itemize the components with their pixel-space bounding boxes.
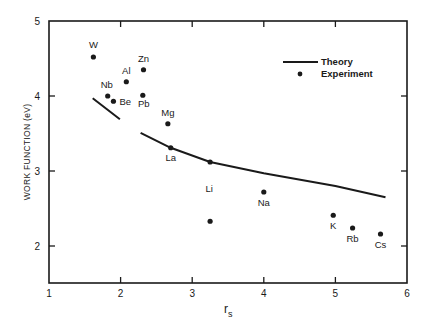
x-axis-title-subscript: s	[228, 309, 233, 319]
experiment-point-la	[168, 145, 173, 150]
experiment-point-zn	[141, 67, 146, 72]
experiment-point-k	[331, 213, 336, 218]
point-label: Be	[119, 96, 131, 107]
point-label: Na	[258, 197, 271, 208]
experiment-point-nb	[105, 93, 110, 98]
experiment-point	[208, 219, 213, 224]
theory-curve	[93, 98, 386, 197]
y-tick-label: 5	[34, 16, 40, 27]
legend-experiment-swatch	[298, 72, 303, 77]
point-label: La	[165, 152, 176, 163]
x-axis-title: rs	[224, 302, 233, 319]
experiment-point-na	[261, 189, 266, 194]
x-tick-label: 2	[118, 288, 124, 299]
theory-line-segment	[141, 133, 386, 198]
axis-ticks: 1234562345	[34, 16, 410, 299]
experiment-point-rb	[350, 225, 355, 230]
x-tick-label: 6	[404, 288, 410, 299]
y-axis-title: WORK FUNCTION (eV)	[22, 104, 32, 201]
experiment-point-li	[208, 159, 213, 164]
experiment-point-be	[111, 99, 116, 104]
point-label: K	[330, 220, 337, 231]
point-label: Zn	[138, 53, 149, 64]
work-function-chart: 1234562345 WNbBeAlZnPbMgLaLiNaKRbCs WORK…	[0, 0, 427, 334]
point-label: Pb	[138, 98, 150, 109]
y-tick-label: 2	[34, 241, 40, 252]
experiment-point-w	[91, 54, 96, 59]
x-tick-label: 3	[189, 288, 195, 299]
point-label: Li	[205, 183, 212, 194]
experiment-point-cs	[378, 231, 383, 236]
legend-theory-label: Theory	[321, 56, 353, 67]
point-label: Nb	[101, 79, 113, 90]
experiment-point-al	[124, 79, 129, 84]
y-tick-label: 3	[34, 166, 40, 177]
legend: Theory Experiment	[283, 56, 374, 79]
point-label: Cs	[375, 239, 387, 250]
experiment-point-pb	[140, 93, 145, 98]
point-label: W	[89, 39, 98, 50]
experiment-point-mg	[165, 121, 170, 126]
x-tick-label: 5	[333, 288, 339, 299]
x-tick-label: 1	[46, 288, 52, 299]
point-label: Mg	[161, 107, 174, 118]
legend-experiment-label: Experiment	[321, 68, 374, 79]
point-label: Al	[122, 65, 130, 76]
x-tick-label: 4	[261, 288, 267, 299]
y-tick-label: 4	[34, 91, 40, 102]
point-label: Rb	[347, 233, 359, 244]
